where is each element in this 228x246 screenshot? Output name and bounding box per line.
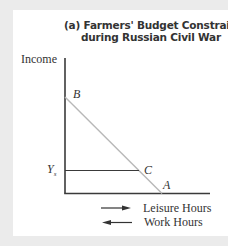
left-arrow-icon — [102, 220, 132, 225]
ys-label: Ys — [47, 162, 56, 178]
point-a-label: A — [163, 178, 170, 193]
legend-work-hours: Work Hours — [144, 215, 203, 230]
budget-line — [65, 97, 162, 194]
ys-letter: Y — [47, 162, 54, 176]
ys-subscript: s — [54, 170, 57, 178]
right-arrow-icon — [101, 206, 131, 211]
point-c-label: C — [144, 163, 152, 178]
legend-leisure-hours: Leisure Hours — [143, 201, 211, 216]
point-b-label: B — [73, 87, 80, 102]
